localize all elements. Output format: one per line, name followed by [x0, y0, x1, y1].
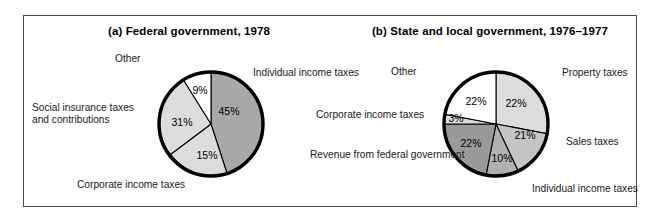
pie-a-svg: 45% 15% 31% 9%	[155, 68, 267, 180]
chart-panel-federal: (a) Federal government, 1978 45% 15% 31%…	[24, 16, 354, 208]
pie-chart-federal: 45% 15% 31% 9%	[155, 68, 267, 180]
chart-b-label-corporate: Corporate income taxes	[316, 109, 424, 121]
chart-a-label-corporate: Corporate income taxes	[77, 179, 185, 191]
pie-b-pct-individual: 10%	[491, 152, 512, 164]
pie-a-pct-social: 31%	[171, 116, 192, 128]
pie-b-pct-corporate: 3%	[448, 112, 463, 124]
pie-a-pct-other: 9%	[192, 84, 207, 96]
pie-b-pct-revenue: 22%	[460, 137, 481, 149]
chart-b-title: (b) State and local government, 1976–197…	[348, 25, 632, 37]
pie-b-pct-sales: 21%	[514, 129, 535, 141]
chart-a-title: (a) Federal government, 1978	[24, 25, 354, 37]
figure-root: (a) Federal government, 1978 45% 15% 31%…	[0, 0, 661, 222]
chart-b-label-revenue: Revenue from federal government	[310, 149, 465, 161]
chart-a-label-other: Other	[115, 53, 140, 65]
chart-b-label-individual: Individual income taxes	[532, 183, 638, 195]
chart-a-label-social-line2: and contributions	[32, 114, 110, 125]
chart-a-label-social: Social insurance taxes and contributions	[32, 102, 154, 125]
pie-a-pct-individual: 45%	[218, 105, 239, 117]
chart-a-label-social-line1: Social insurance taxes	[32, 102, 134, 113]
pie-b-pct-other: 22%	[465, 95, 486, 107]
chart-b-label-other: Other	[391, 66, 416, 78]
chart-b-label-property: Property taxes	[562, 67, 628, 79]
chart-b-label-sales: Sales taxes	[566, 136, 619, 148]
pie-b-svg: 22% 21% 10% 22% 3% 22%	[440, 68, 552, 180]
chart-a-label-individual: Individual income taxes	[253, 67, 359, 79]
pie-a-pct-corporate: 15%	[196, 149, 217, 161]
chart-panel-state-local: (b) State and local government, 1976–197…	[354, 16, 638, 208]
pie-b-pct-property: 22%	[505, 97, 526, 109]
figure-frame: (a) Federal government, 1978 45% 15% 31%…	[23, 15, 637, 207]
pie-chart-state-local: 22% 21% 10% 22% 3% 22%	[440, 68, 552, 180]
